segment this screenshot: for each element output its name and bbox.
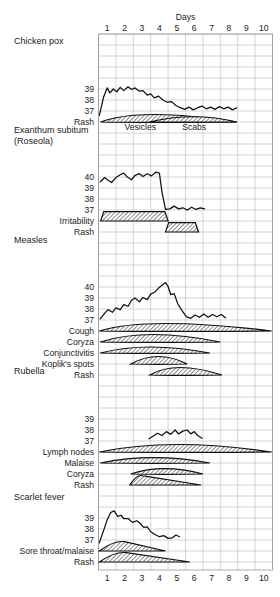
temperature-curve: [99, 511, 179, 543]
panel-rubella: Rubella393837Lymph nodesMalaiseCoryzaRas…: [14, 366, 272, 490]
disease-timeline-chart: Days1122334455667788991010Chicken pox393…: [0, 0, 280, 597]
symptom-band: [100, 458, 210, 464]
x-tick-bottom: 10: [259, 573, 269, 583]
panel-measles: Measles40393837CoughCoryzaConjunctivitis…: [14, 235, 272, 380]
x-axis: Days1122334455667788991010: [105, 12, 269, 583]
y-tick: 39: [84, 293, 94, 303]
y-tick: 37: [84, 205, 94, 215]
y-tick: 39: [84, 513, 94, 523]
y-tick: 38: [84, 425, 94, 435]
panel-title: Exanthum subitum: [14, 125, 89, 135]
y-tick: 38: [84, 304, 94, 314]
x-tick-bottom: 5: [174, 573, 179, 583]
y-tick: 38: [84, 95, 94, 105]
symptom-label: Sore throat/malaise: [19, 546, 94, 556]
symptom-label: Rash: [74, 370, 94, 380]
x-tick-top: 2: [122, 23, 127, 33]
y-tick: 37: [84, 106, 94, 116]
symptom-band: [99, 444, 271, 452]
band-inline-label: Scabs: [182, 122, 206, 132]
symptom-band: [101, 212, 169, 221]
chart-canvas: Days1122334455667788991010Chicken pox393…: [0, 0, 280, 597]
panel-exanthum-subitum: Exanthum subitum(Roseola)40393837Irritab…: [14, 125, 205, 237]
x-tick-top: 6: [192, 23, 197, 33]
panel-title: Rubella: [14, 366, 45, 376]
x-tick-bottom: 8: [227, 573, 232, 583]
x-tick-bottom: 9: [244, 573, 249, 583]
y-tick: 40: [84, 282, 94, 292]
x-tick-bottom: 7: [209, 573, 214, 583]
symptom-label: Coryza: [67, 469, 94, 479]
symptom-label: Koplik's spots: [42, 359, 94, 369]
symptom-band: [131, 469, 203, 475]
x-tick-top: 9: [244, 23, 249, 33]
symptom-band: [130, 475, 201, 485]
panel-scarlet-fever: Scarlet fever393837Sore throat/malaiseRa…: [14, 492, 190, 567]
x-tick-bottom: 6: [192, 573, 197, 583]
temperature-curve: [149, 430, 202, 439]
y-tick: 37: [84, 436, 94, 446]
x-tick-top: 4: [157, 23, 162, 33]
symptom-band: [100, 334, 220, 342]
symptom-label: Rash: [74, 557, 94, 567]
symptom-band: [165, 223, 198, 232]
symptom-label: Rash: [74, 480, 94, 490]
y-tick: 39: [84, 84, 94, 94]
x-tick-bottom: 2: [122, 573, 127, 583]
panel-title: (Roseola): [14, 136, 53, 146]
x-tick-bottom: 1: [105, 573, 110, 583]
x-tick-top: 7: [209, 23, 214, 33]
panel-title: Scarlet fever: [14, 492, 65, 502]
x-tick-top: 5: [174, 23, 179, 33]
y-tick: 38: [84, 194, 94, 204]
temperature-curve: [100, 283, 225, 319]
symptom-label: Coryza: [67, 337, 94, 347]
symptom-band: [99, 541, 165, 551]
symptom-label: Lymph nodes: [43, 447, 94, 457]
symptom-band: [99, 552, 189, 562]
symptom-label: Rash: [74, 227, 94, 237]
y-tick: 38: [84, 524, 94, 534]
panel-chicken-pox: Chicken pox393837RashVesiclesScabs: [14, 36, 237, 132]
symptom-label: Malaise: [64, 458, 94, 468]
panel-title: Chicken pox: [14, 36, 64, 46]
y-tick: 37: [84, 535, 94, 545]
symptom-label: Irritability: [60, 216, 95, 226]
grid-lines: [99, 34, 273, 570]
x-tick-top: 3: [140, 23, 145, 33]
symptom-band: [131, 356, 188, 364]
panel-title: Measles: [14, 235, 48, 245]
x-tick-bottom: 3: [140, 573, 145, 583]
band-inline-label: Vesicles: [124, 122, 156, 132]
x-tick-top: 10: [259, 23, 269, 33]
y-tick: 37: [84, 315, 94, 325]
symptom-band: [150, 367, 222, 375]
x-tick-top: 8: [227, 23, 232, 33]
y-tick: 39: [84, 183, 94, 193]
y-tick: 40: [84, 172, 94, 182]
symptom-band: [100, 347, 210, 353]
x-axis-title: Days: [176, 12, 196, 22]
x-tick-bottom: 4: [157, 573, 162, 583]
symptom-band: [99, 323, 271, 331]
y-tick: 39: [84, 414, 94, 424]
x-tick-top: 1: [105, 23, 110, 33]
symptom-label: Conjunctivitis: [43, 348, 94, 358]
symptom-label: Cough: [69, 326, 95, 336]
